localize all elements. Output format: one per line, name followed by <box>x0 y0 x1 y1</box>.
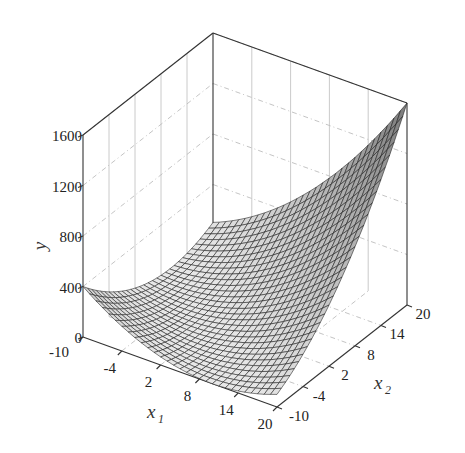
svg-text:x: x <box>373 372 383 393</box>
box-edge <box>83 33 213 135</box>
grid-line-y-left-wall <box>83 84 213 186</box>
y-tick-label: 1200 <box>52 179 82 195</box>
y-tick-label: 400 <box>60 280 83 296</box>
x1-tick-mark <box>273 407 277 411</box>
x2-tick-label: -10 <box>289 408 309 424</box>
svg-text:2: 2 <box>385 383 391 397</box>
y-tick-label: 800 <box>60 229 83 245</box>
x1-tick-label: 8 <box>184 388 192 404</box>
x1-tick-mark <box>157 365 161 369</box>
x2-tick-label: 14 <box>390 326 406 342</box>
svg-text:x: x <box>146 401 156 422</box>
y-tick-label: 1600 <box>52 128 82 144</box>
x1-tick-label: 14 <box>219 402 235 418</box>
x2-tick-mark <box>303 387 308 389</box>
x1-tick-mark <box>195 379 199 383</box>
x1-axis-label: x 1 <box>146 401 164 426</box>
x1-tick-label: 2 <box>145 374 153 390</box>
x2-tick-mark <box>277 407 282 409</box>
x2-tick-mark <box>381 325 386 327</box>
surface-plot: 040080012001600-10-4281420-10-4281420 y … <box>0 0 465 453</box>
x2-tick-mark <box>329 366 334 368</box>
x2-axis-label: x 2 <box>373 372 391 397</box>
x1-tick-mark <box>234 393 238 397</box>
x2-tick-label: 20 <box>416 306 431 322</box>
y-axis-label: y <box>29 241 50 252</box>
x1-tick-mark <box>118 351 122 355</box>
grid-line-y-left-wall <box>83 134 213 236</box>
x1-tick-label: 20 <box>258 416 273 432</box>
x2-tick-mark <box>407 305 412 307</box>
x1-tick-label: -4 <box>104 360 117 376</box>
x2-tick-label: 2 <box>341 367 349 383</box>
box-edge <box>213 33 407 103</box>
x2-tick-mark <box>355 346 360 348</box>
x2-tick-label: -4 <box>313 388 326 404</box>
x1-tick-label: -10 <box>49 344 69 360</box>
svg-text:1: 1 <box>158 412 164 426</box>
x2-tick-label: 8 <box>367 347 375 363</box>
